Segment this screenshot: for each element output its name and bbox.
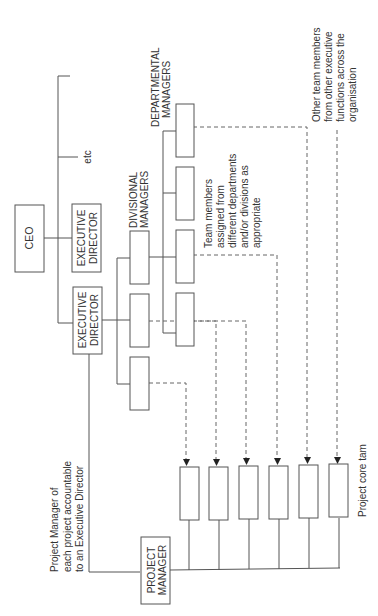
divisional-manager-box-3	[130, 357, 149, 410]
other-note-line: Other team members	[311, 28, 322, 122]
etc-label: etc	[82, 150, 93, 163]
departmental-managers-label-line1: DEPARTMENTAL	[150, 47, 161, 127]
pm-note-line: each project accountable	[62, 460, 73, 572]
dashed-assign-1	[149, 383, 186, 460]
other-note-line: organisation	[347, 68, 358, 122]
departmental-manager-box-3	[176, 230, 194, 283]
team-note-line: appropriate	[251, 197, 262, 248]
team-note-line: assigned from	[215, 185, 226, 248]
exec-director-1-node: EXECUTIVE DIRECTOR	[72, 204, 101, 272]
project-core-team-label: Project core tam	[357, 444, 368, 517]
divisional-managers-label-line1: DIVISIONAL	[128, 171, 139, 228]
dashed-assign-5	[193, 127, 307, 458]
dashed-assign-3	[193, 321, 246, 459]
other-note-line: functions across the	[335, 33, 346, 122]
departmental-managers-label-line2: MANAGERS	[161, 60, 172, 118]
core-team-box-1	[180, 467, 199, 520]
departmental-manager-box-1	[176, 104, 194, 157]
core-team-box-5	[299, 465, 318, 518]
arrow-down-icon	[243, 458, 250, 465]
ceo-node: CEO	[15, 205, 44, 272]
project-manager-label-line1: PROJECT	[146, 547, 157, 594]
org-diagram: CEO EXECUTIVE DIRECTOR EXECUTIVE DIRECTO…	[0, 0, 378, 616]
departmental-manager-box-4	[176, 293, 194, 346]
other-members-note: Other team members from other executive …	[311, 28, 358, 122]
arrow-down-icon	[304, 457, 311, 464]
project-manager-label-line2: MANAGER	[157, 545, 168, 596]
divisional-managers-label-line2: MANAGERS	[139, 170, 150, 228]
core-team-box-4	[269, 466, 288, 519]
team-note-line: and/or divisions as	[239, 165, 250, 248]
arrow-down-icon	[334, 457, 341, 464]
exec-director-2-label-line2: DIRECTOR	[89, 294, 100, 346]
other-note-line: from other executive	[323, 31, 334, 122]
arrow-down-icon	[274, 458, 281, 465]
team-note-line: Team members	[203, 179, 214, 248]
core-team-box-2	[209, 467, 228, 520]
team-note: Team members assigned from different dep…	[203, 154, 262, 248]
exec-director-2-node: EXECUTIVE DIRECTOR	[73, 287, 102, 354]
dashed-assign-4	[193, 255, 277, 459]
arrow-down-icon	[213, 459, 220, 466]
team-note-line: different departments	[227, 154, 238, 248]
core-team-box-3	[239, 466, 258, 519]
pm-note-line: Project Manager of	[49, 487, 60, 572]
core-team-box-6	[329, 464, 348, 517]
arrow-down-icon	[183, 459, 190, 466]
exec-director-1-label-line1: EXECUTIVE	[76, 209, 87, 266]
pm-note-line: to an Executive Director	[74, 465, 85, 572]
core-team-bus	[170, 568, 340, 570]
exec-director-1-label-line2: DIRECTOR	[88, 212, 99, 264]
ceo-label: CEO	[23, 227, 35, 250]
pm-note: Project Manager of each project accounta…	[49, 460, 85, 572]
project-manager-node: PROJECT MANAGER	[141, 537, 170, 604]
divisional-manager-box-2	[130, 294, 149, 347]
exec-director-2-label-line1: EXECUTIVE	[77, 291, 88, 348]
divisional-manager-box-1	[130, 231, 149, 284]
departmental-manager-box-2	[176, 167, 194, 220]
